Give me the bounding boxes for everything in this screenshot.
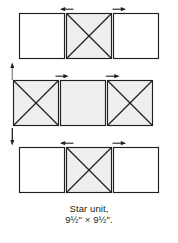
top-row [20,14,159,59]
bottom-row [20,148,159,193]
seam-arrow-top-right [113,7,127,11]
seam-arrow-bottom-left [60,141,74,145]
caption-line-title: Star unit, [0,203,178,214]
seam-arrow-row-join-up [10,63,14,80]
caption-line-size: 9½" × 9½". [0,214,178,225]
middle-row-hourglass-square-left [14,81,59,126]
figure-caption: Star unit, 9½" × 9½". [0,203,178,225]
middle-row [14,81,153,126]
bottom-row-hourglass-square [67,148,112,193]
top-row-hourglass-square [67,14,112,59]
bottom-row-plain-square-right [114,148,159,193]
bottom-row-plain-square-left [20,148,65,193]
top-row-plain-square-right [114,14,159,59]
seam-arrow-middle-left [56,74,69,78]
middle-row-center-square [61,81,106,126]
middle-row-hourglass-square-right [108,81,153,126]
star-unit-diagram: Star unit, 9½" × 9½". [0,0,178,243]
seam-arrow-bottom-right [113,141,127,145]
top-row-plain-square-left [20,14,65,59]
seam-arrow-row-join-down [10,128,14,145]
seam-arrow-middle-right [106,74,120,78]
seam-arrow-top-left [60,7,74,11]
